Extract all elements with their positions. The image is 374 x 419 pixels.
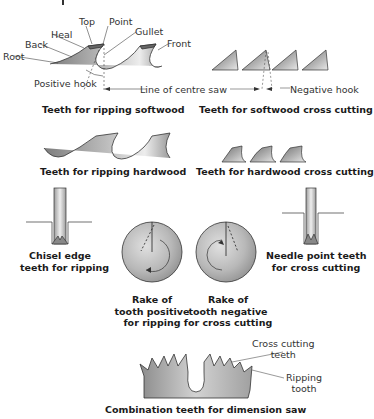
caption-line: Needle point teeth — [266, 250, 366, 262]
label-line: Cross cutting — [252, 338, 314, 349]
label-line: Ripping — [286, 372, 322, 383]
caption-line: teeth for ripping — [20, 262, 100, 274]
ripping-hardwood-teeth — [44, 133, 170, 159]
caption-ripping-softwood: Teeth for ripping softwood — [42, 104, 185, 116]
label-line: teeth — [252, 349, 314, 360]
caption-line: Chisel edge — [20, 250, 100, 262]
chisel-edge-diagram — [26, 188, 92, 244]
combination-teeth — [140, 354, 252, 398]
caption-rake-negative: Rake of tooth negative for cross cutting — [180, 294, 276, 329]
caption-needle-point: Needle point teeth for cross cutting — [266, 250, 366, 273]
caption-line: for cross cutting — [180, 317, 276, 329]
label-gullet: Gullet — [135, 26, 163, 37]
label-back: Back — [25, 39, 48, 50]
rake-negative-disc — [196, 222, 256, 282]
label-root: Root — [3, 51, 25, 62]
rake-positive-disc — [122, 222, 182, 282]
caption-softwood-cross-cutting: Teeth for softwood cross cutting — [199, 104, 373, 116]
label-cross-cutting-teeth: Cross cutting teeth — [252, 338, 314, 360]
caption-chisel-edge: Chisel edge teeth for ripping — [20, 250, 100, 273]
caption-combination: Combination teeth for dimension saw — [105, 404, 306, 416]
label-centre-line: Line of centre saw — [140, 84, 227, 95]
label-heal: Heal — [51, 29, 72, 40]
label-ripping-tooth: Ripping tooth — [286, 372, 322, 394]
label-top: Top — [79, 16, 95, 27]
cropped-glyph — [62, 0, 64, 5]
needle-point-diagram — [282, 188, 344, 244]
ripping-softwood-teeth — [50, 44, 162, 69]
caption-line: for cross cutting — [266, 262, 366, 274]
softwood-cross-cutting-teeth — [212, 50, 328, 70]
label-line: tooth — [286, 383, 322, 394]
caption-line: tooth negative — [180, 306, 276, 318]
caption-hardwood-cross-cutting: Teeth for hardwood cross cutting — [196, 166, 374, 178]
label-point: Point — [109, 16, 133, 27]
caption-line: Rake of — [180, 294, 276, 306]
label-front: Front — [167, 38, 191, 49]
label-negative-hook: Negative hook — [290, 84, 359, 95]
hardwood-cross-cutting-teeth — [222, 146, 306, 162]
caption-ripping-hardwood: Teeth for ripping hardwood — [40, 166, 186, 178]
label-positive-hook: Positive hook — [34, 78, 97, 89]
